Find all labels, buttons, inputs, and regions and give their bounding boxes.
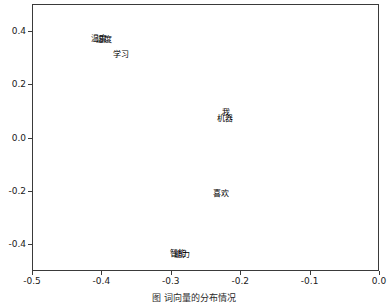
caption-text: 词向量的分布情况 (164, 293, 236, 303)
x-axis-tick (379, 271, 380, 275)
data-point-label: 喜欢 (213, 189, 229, 198)
scatter-plot-figure: 温度湿度学习我机器喜欢智能能力 -0.5-0.4-0.3-0.2-0.10.00… (0, 0, 388, 304)
x-axis-tick (171, 271, 172, 275)
data-point-label: 能力 (174, 249, 190, 258)
y-axis-tick-label: 0.2 (12, 79, 26, 89)
y-axis-tick (28, 138, 32, 139)
y-axis-tick-label: -0.4 (8, 239, 26, 249)
x-axis-tick-label: -0.3 (162, 276, 180, 286)
x-axis-tick (32, 271, 33, 275)
x-axis-tick (310, 271, 311, 275)
y-axis-tick (28, 31, 32, 32)
y-axis-tick (28, 191, 32, 192)
data-point-label: 机器 (217, 114, 233, 123)
x-axis-tick (101, 271, 102, 275)
y-axis-tick (28, 84, 32, 85)
x-axis-tick-label: -0.2 (231, 276, 249, 286)
caption-figure-label: 图 (152, 293, 162, 303)
data-points-layer: 温度湿度学习我机器喜欢智能能力 (33, 5, 378, 270)
y-axis-tick-label: 0.4 (12, 26, 26, 36)
data-point-label: 学习 (113, 49, 129, 58)
x-axis-tick-label: -0.1 (301, 276, 319, 286)
data-point-label: 湿度 (96, 34, 112, 43)
figure-caption: 图 词向量的分布情况 (0, 291, 388, 304)
x-axis-tick-label: -0.5 (23, 276, 41, 286)
y-axis-tick-label: 0.0 (12, 133, 26, 143)
plot-frame: 温度湿度学习我机器喜欢智能能力 (32, 4, 379, 271)
x-axis-tick-label: -0.4 (93, 276, 111, 286)
y-axis-tick-label: -0.2 (8, 186, 26, 196)
x-axis-tick (240, 271, 241, 275)
x-axis-tick-label: 0.0 (372, 276, 386, 286)
y-axis-tick (28, 244, 32, 245)
